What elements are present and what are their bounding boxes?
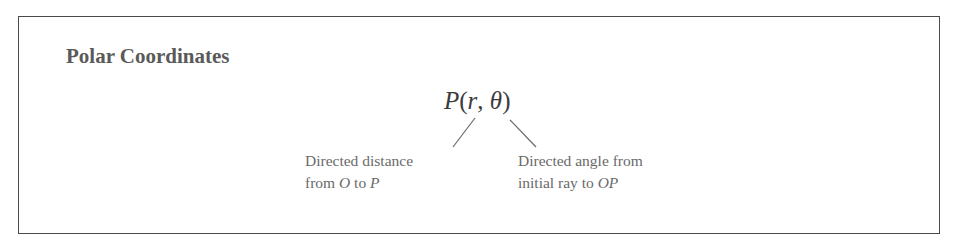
theta-annotation-prefix: initial ray to bbox=[518, 174, 598, 191]
r-annotation-mid: to bbox=[350, 174, 370, 191]
theta-annotation-line2: initial ray to OP bbox=[518, 172, 643, 194]
theta-annotation-line1: Directed angle from bbox=[518, 150, 643, 172]
origin-symbol: O bbox=[339, 174, 350, 191]
point-symbol-ref: P bbox=[370, 174, 379, 191]
r-annotation-prefix: from bbox=[305, 174, 339, 191]
r-annotation: Directed distance from O to P bbox=[305, 150, 413, 194]
r-leader-line bbox=[453, 118, 475, 147]
r-annotation-line1: Directed distance bbox=[305, 150, 413, 172]
leader-lines bbox=[0, 0, 963, 242]
theta-leader-line bbox=[510, 120, 536, 147]
theta-annotation: Directed angle from initial ray to OP bbox=[518, 150, 643, 194]
r-annotation-line2: from O to P bbox=[305, 172, 413, 194]
op-symbol: OP bbox=[598, 174, 619, 191]
